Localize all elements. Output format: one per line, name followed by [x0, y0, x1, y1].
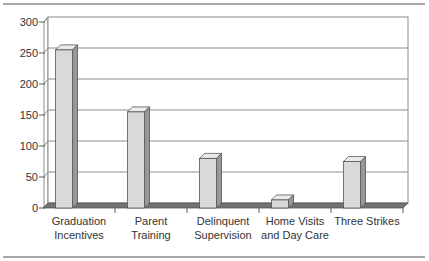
bottom-horizontal-rule	[3, 256, 425, 258]
category-label-graduation-incentives: GraduationIncentives	[52, 215, 106, 241]
bar-home-visits-and-day-care	[272, 200, 289, 208]
y-tick-label-250: 250	[20, 47, 38, 59]
bar-parent-training	[128, 112, 145, 208]
y-tick-label-150: 150	[20, 109, 38, 121]
bar-side-parent-training	[145, 107, 150, 208]
y-tick-label-0: 0	[32, 202, 38, 214]
bar-chart: 050100150200250300GraduationIncentivesPa…	[0, 0, 429, 261]
bar-graduation-incentives	[56, 50, 73, 208]
y-tick-label-100: 100	[20, 140, 38, 152]
bar-three-strikes	[344, 162, 361, 209]
bar-side-graduation-incentives	[73, 45, 78, 208]
category-label-three-strikes: Three Strikes	[334, 215, 400, 227]
y-tick-label-300: 300	[20, 16, 38, 28]
category-label-parent-training: ParentTraining	[131, 215, 170, 241]
category-label-delinquent-supervision: DelinquentSupervision	[194, 215, 251, 241]
bar-side-three-strikes	[361, 157, 366, 209]
bar-delinquent-supervision	[200, 158, 217, 208]
bar-side-delinquent-supervision	[217, 153, 222, 208]
y-tick-label-200: 200	[20, 78, 38, 90]
category-label-home-visits-and-day-care: Home Visitsand Day Care	[261, 215, 329, 241]
y-tick-label-50: 50	[26, 171, 38, 183]
